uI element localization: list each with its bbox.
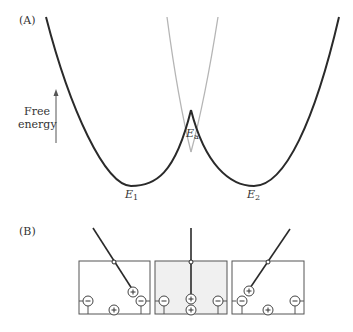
ea-label: Ea — [186, 127, 199, 141]
arrow-head-icon — [54, 89, 59, 96]
y-axis-label: Free energy — [18, 105, 50, 131]
energy-well-1 — [46, 17, 191, 186]
ea-label-name: E — [186, 127, 194, 140]
ea-label-sub: a — [194, 132, 199, 141]
y-axis-label-line1: Free — [18, 105, 50, 118]
e2-label-name: E — [247, 188, 255, 201]
e1-label-name: E — [125, 188, 133, 201]
e1-label-sub: 1 — [133, 193, 138, 202]
panel-a-label: (A) — [19, 14, 36, 27]
y-axis-label-line2: energy — [18, 118, 50, 131]
figure-canvas — [0, 0, 353, 332]
e1-label: E1 — [125, 188, 138, 202]
e2-label: E2 — [247, 188, 260, 202]
panel-b-label: (B) — [19, 225, 36, 238]
energy-well-2 — [191, 17, 339, 186]
e2-label-sub: 2 — [255, 193, 260, 202]
energy-well-1-fix — [46, 17, 191, 186]
